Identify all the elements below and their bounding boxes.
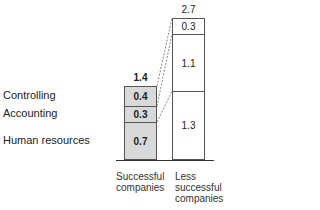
x-label-less-successful: Less successful companies	[175, 171, 223, 204]
value-less-controlling: 0.3	[182, 21, 196, 32]
total-less-successful: 2.7	[172, 4, 205, 15]
value-successful-accounting: 0.3	[134, 109, 148, 120]
total-successful: 1.4	[124, 72, 157, 83]
value-successful-human-resources: 0.7	[134, 136, 148, 147]
x-label-successful-line1: Successful	[116, 171, 164, 182]
value-less-accounting: 1.1	[182, 58, 196, 69]
x-label-less-line2: successful	[175, 182, 223, 193]
bar-less-controlling: 0.3	[172, 18, 205, 35]
value-successful-controlling: 0.4	[134, 91, 148, 102]
x-axis-baseline	[116, 160, 214, 161]
x-label-less-line3: companies	[175, 193, 223, 204]
bar-successful-controlling: 0.4	[124, 86, 157, 107]
bar-less-human-resources: 1.3	[172, 91, 205, 160]
x-label-successful: Successful companies	[116, 171, 164, 193]
bar-successful-accounting: 0.3	[124, 106, 157, 123]
value-less-human-resources: 1.3	[182, 120, 196, 131]
bar-less-accounting: 1.1	[172, 34, 205, 92]
x-label-less-line1: Less	[175, 171, 223, 182]
bar-successful-human-resources: 0.7	[124, 122, 157, 160]
x-label-successful-line2: companies	[116, 182, 164, 193]
